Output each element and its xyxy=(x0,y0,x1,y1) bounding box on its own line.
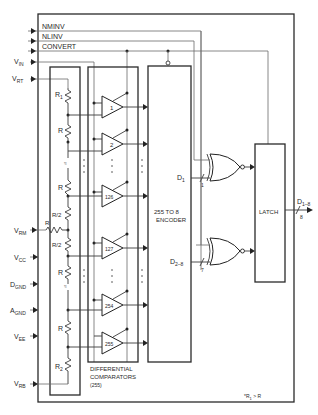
vee-input: VEE xyxy=(14,333,38,342)
nminv-label: NMINV xyxy=(42,23,65,30)
comparators-caption-3: (255) xyxy=(90,382,102,388)
svg-text:VCC: VCC xyxy=(14,254,26,263)
svg-text:R: R xyxy=(58,325,63,332)
comparators-caption-1: DIFFERENTIAL xyxy=(90,366,133,372)
svg-text:254: 254 xyxy=(105,303,114,309)
svg-text:7: 7 xyxy=(201,267,204,273)
svg-text:R/2: R/2 xyxy=(52,212,62,218)
dgnd-input: DGND xyxy=(10,281,38,290)
nlinv-arrow-icon xyxy=(31,38,36,44)
svg-text:VRT: VRT xyxy=(12,75,23,84)
svg-text:R2: R2 xyxy=(55,363,63,372)
convert-label: CONVERT xyxy=(42,43,77,50)
comparators-caption-2: COMPARATORS xyxy=(90,374,136,380)
svg-text:AGND: AGND xyxy=(10,307,26,316)
d28-output: D2–8 7 xyxy=(170,238,255,273)
vin-input: VIN xyxy=(14,58,94,362)
svg-text:VRM: VRM xyxy=(14,227,26,236)
svg-text:1: 1 xyxy=(201,182,204,188)
svg-text:R/2: R/2 xyxy=(52,242,62,248)
svg-text:VRB: VRB xyxy=(14,380,26,389)
footnote: *R1 > R xyxy=(244,393,262,401)
nlinv-label: NLINV xyxy=(42,33,63,40)
svg-text:VIN: VIN xyxy=(14,58,24,67)
convert-arrow-icon xyxy=(31,48,36,54)
svg-text:R: R xyxy=(45,220,50,226)
adc-block-diagram: NMINV NLINV CONVERT VIN VRT R1 R ≈ R R/2 xyxy=(0,0,318,415)
vcc-input: VCC xyxy=(14,254,38,263)
encoder-label-2: ENCODER xyxy=(156,217,187,223)
svg-text:255: 255 xyxy=(105,341,114,347)
nminv-arrow-icon xyxy=(31,28,36,34)
vrb-input: VRB xyxy=(14,380,38,389)
svg-text:126: 126 xyxy=(105,194,114,200)
svg-text:R1: R1 xyxy=(55,91,63,100)
vrt-input: VRT xyxy=(12,75,68,88)
svg-text:R: R xyxy=(58,127,63,134)
d1-output: D1 1 xyxy=(177,154,255,188)
svg-text:R: R xyxy=(58,184,63,191)
svg-text:R: R xyxy=(58,269,63,276)
ellipsis-dots xyxy=(83,159,142,282)
svg-text:D1: D1 xyxy=(177,174,185,183)
svg-text:DGND: DGND xyxy=(10,281,27,290)
svg-text:≈: ≈ xyxy=(64,283,67,289)
resistor-ladder-box xyxy=(50,67,80,395)
svg-text:≈: ≈ xyxy=(64,160,67,166)
svg-text:VEE: VEE xyxy=(14,333,26,342)
agnd-input: AGND xyxy=(10,307,38,316)
encoder-label-1: 255 TO 8 xyxy=(154,209,179,215)
svg-text:D2–8: D2–8 xyxy=(170,258,184,267)
svg-text:8: 8 xyxy=(300,214,303,220)
svg-text:D1–8: D1–8 xyxy=(297,198,311,207)
latch-output: D1–8 8 xyxy=(285,198,313,220)
latch-label: LATCH xyxy=(259,209,278,215)
svg-text:127: 127 xyxy=(105,246,114,252)
